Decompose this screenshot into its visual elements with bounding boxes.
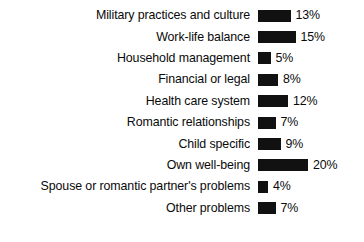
- category-label: Child specific: [0, 138, 250, 151]
- bar-zone: 15%: [250, 31, 325, 44]
- value-label: 7%: [276, 116, 299, 129]
- value-label: 9%: [281, 138, 304, 151]
- chart-row: Financial or legal8%: [0, 69, 364, 90]
- bar: [258, 31, 296, 43]
- value-label: 15%: [296, 31, 326, 44]
- chart-row: Own well-being20%: [0, 155, 364, 176]
- category-label: Military practices and culture: [0, 9, 250, 22]
- category-label: Spouse or romantic partner's problems: [0, 180, 250, 193]
- bar-zone: 20%: [250, 159, 338, 172]
- category-label: Household management: [0, 52, 250, 65]
- chart-row: Spouse or romantic partner's problems4%: [0, 176, 364, 197]
- bar: [258, 202, 276, 214]
- bar-zone: 13%: [250, 9, 320, 22]
- value-label: 4%: [268, 180, 291, 193]
- chart-row: Other problems7%: [0, 198, 364, 219]
- bar: [258, 10, 291, 22]
- bar-zone: 12%: [250, 95, 318, 108]
- bar: [258, 117, 276, 129]
- horizontal-bar-chart: Military practices and culture13%Work-li…: [0, 0, 364, 242]
- chart-row: Child specific9%: [0, 133, 364, 154]
- bar-zone: 4%: [250, 180, 291, 193]
- bar: [258, 159, 308, 171]
- chart-row: Household management5%: [0, 48, 364, 69]
- bar-zone: 9%: [250, 138, 303, 151]
- bar: [258, 181, 268, 193]
- bar-zone: 5%: [250, 52, 293, 65]
- value-label: 13%: [291, 9, 321, 22]
- category-label: Health care system: [0, 95, 250, 108]
- bar-zone: 7%: [250, 202, 298, 215]
- bar-zone: 8%: [250, 73, 301, 86]
- bar: [258, 138, 281, 150]
- value-label: 7%: [276, 202, 299, 215]
- value-label: 12%: [288, 95, 318, 108]
- category-label: Own well-being: [0, 159, 250, 172]
- category-label: Financial or legal: [0, 73, 250, 86]
- category-label: Romantic relationships: [0, 116, 250, 129]
- bar: [258, 52, 271, 64]
- chart-row: Military practices and culture13%: [0, 5, 364, 26]
- bar: [258, 95, 288, 107]
- chart-row: Health care system12%: [0, 91, 364, 112]
- chart-row: Work-life balance15%: [0, 26, 364, 47]
- category-label: Other problems: [0, 202, 250, 215]
- value-label: 8%: [278, 73, 301, 86]
- value-label: 5%: [271, 52, 294, 65]
- category-label: Work-life balance: [0, 31, 250, 44]
- bar: [258, 74, 278, 86]
- chart-row: Romantic relationships7%: [0, 112, 364, 133]
- bar-zone: 7%: [250, 116, 298, 129]
- chart-rows: Military practices and culture13%Work-li…: [0, 5, 364, 219]
- value-label: 20%: [308, 159, 338, 172]
